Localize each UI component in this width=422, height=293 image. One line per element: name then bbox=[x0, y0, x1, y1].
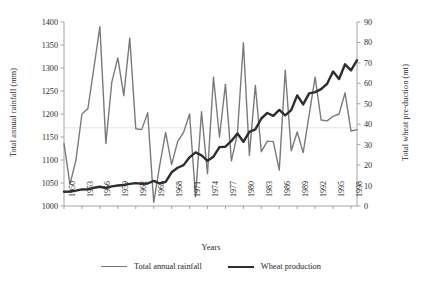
chart-legend: Total annual rainfallWheat production bbox=[0, 262, 422, 271]
x-tick-1968: 1968 bbox=[175, 181, 184, 211]
x-tick-1953: 1953 bbox=[86, 181, 95, 211]
y-tick-left-1050: 1050 bbox=[20, 179, 58, 188]
legend-label: Wheat production bbox=[261, 262, 321, 271]
chart-figure: Total annual rainfall (mm) Total wheat p… bbox=[0, 0, 422, 293]
y-tick-right-60: 60 bbox=[364, 79, 394, 88]
y-tick-right-40: 40 bbox=[364, 120, 394, 129]
x-tick-1971: 1971 bbox=[193, 181, 202, 211]
y-tick-right-0: 0 bbox=[364, 202, 394, 211]
x-tick-1986: 1986 bbox=[283, 181, 292, 211]
x-tick-1974: 1974 bbox=[211, 181, 220, 211]
x-tick-1962: 1962 bbox=[139, 181, 148, 211]
x-tick-1983: 1983 bbox=[265, 181, 274, 211]
x-tick-1977: 1977 bbox=[229, 181, 238, 211]
legend-entry-rainfall[interactable]: Total annual rainfall bbox=[101, 262, 202, 271]
x-tick-1980: 1980 bbox=[247, 181, 256, 211]
y-tick-right-30: 30 bbox=[364, 140, 394, 149]
y-tick-right-70: 70 bbox=[364, 58, 394, 67]
x-axis-title: Years bbox=[0, 243, 422, 252]
y-tick-right-20: 20 bbox=[364, 161, 394, 170]
axis-lines bbox=[64, 22, 357, 206]
y-tick-right-10: 10 bbox=[364, 181, 394, 190]
y-tick-right-90: 90 bbox=[364, 18, 394, 27]
y-tick-left-1400: 1400 bbox=[20, 18, 58, 27]
y-axis-right-title: Total wheat pre-duction (mt) bbox=[401, 38, 410, 188]
y-tick-right-80: 80 bbox=[364, 38, 394, 47]
y-axis-left-title: Total annual rainfall (mm) bbox=[9, 38, 18, 188]
y-tick-left-1000: 1000 bbox=[20, 202, 58, 211]
y-tick-left-1300: 1300 bbox=[20, 64, 58, 73]
legend-entry-wheat[interactable]: Wheat production bbox=[228, 262, 321, 271]
x-tick-1959: 1959 bbox=[121, 181, 130, 211]
x-tick-1956: 1956 bbox=[103, 181, 112, 211]
legend-label: Total annual rainfall bbox=[134, 262, 202, 271]
y-tick-left-1100: 1100 bbox=[20, 156, 58, 165]
x-tick-1950: 1950 bbox=[68, 181, 77, 211]
x-tick-1995: 1995 bbox=[337, 181, 346, 211]
y-tick-left-1250: 1250 bbox=[20, 87, 58, 96]
y-tick-right-50: 50 bbox=[364, 99, 394, 108]
data-series-layer bbox=[64, 27, 357, 203]
y-tick-left-1200: 1200 bbox=[20, 110, 58, 119]
x-tick-1989: 1989 bbox=[301, 181, 310, 211]
x-tick-1965: 1965 bbox=[157, 181, 166, 211]
series-line-rainfall bbox=[64, 27, 357, 203]
x-tick-1998: 1998 bbox=[355, 181, 364, 211]
x-tick-1992: 1992 bbox=[319, 181, 328, 211]
rainfall-line-swatch bbox=[101, 266, 127, 267]
y-tick-left-1350: 1350 bbox=[20, 41, 58, 50]
wheat-line-swatch bbox=[228, 266, 254, 268]
y-tick-left-1150: 1150 bbox=[20, 133, 58, 142]
